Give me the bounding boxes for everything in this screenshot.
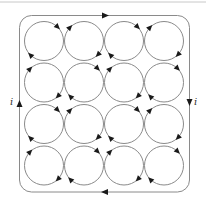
loop-arrow-icon xyxy=(106,150,112,156)
boundary-arrow-top xyxy=(102,13,109,19)
left-current-label: i xyxy=(10,97,13,107)
loop-arrow-icon xyxy=(54,106,60,112)
loop-arrow-icon xyxy=(28,53,34,59)
loop-arrow-icon xyxy=(146,25,152,31)
loop-arrow-icon xyxy=(108,53,114,59)
loop-arrow-icon xyxy=(26,67,32,73)
loop-arrow-icon xyxy=(174,65,180,71)
loop-arrow-icon xyxy=(94,65,100,71)
right-current-label: i xyxy=(194,97,197,107)
loop-arrow-icon xyxy=(94,148,100,154)
loop-arrow-icon xyxy=(136,175,142,181)
loop-arrow-icon xyxy=(106,67,112,73)
loop-arrow-icon xyxy=(66,25,72,31)
boundary-arrow-bottom xyxy=(101,189,108,195)
loop-arrow-icon xyxy=(134,106,140,112)
loop-arrow-icon xyxy=(176,134,182,140)
loop-arrow-icon xyxy=(66,108,72,114)
loop-arrow-icon xyxy=(26,150,32,156)
loop-arrow-icon xyxy=(176,51,182,57)
loop-arrow-icon xyxy=(136,92,142,98)
loop-arrow-icon xyxy=(56,92,62,98)
loop-arrow-icon xyxy=(28,136,34,142)
loop-arrow-icon xyxy=(148,94,154,100)
loop-arrow-icon xyxy=(108,136,114,142)
loop-arrow-icon xyxy=(54,23,60,29)
loop-arrow-icon xyxy=(96,134,102,140)
loop-arrow-icon xyxy=(56,175,62,181)
current-loop-diagram xyxy=(0,0,206,204)
loop-arrow-icon xyxy=(146,108,152,114)
circulating-loops xyxy=(25,22,184,186)
loop-arrow-icon xyxy=(148,177,154,183)
loop-arrow-icon xyxy=(68,177,74,183)
loop-arrow-icon xyxy=(134,23,140,29)
loop-arrow-icon xyxy=(174,148,180,154)
boundary-arrow-left xyxy=(17,100,23,107)
loop-arrow-icon xyxy=(68,94,74,100)
loop-arrow-icon xyxy=(96,51,102,57)
boundary-arrow-right xyxy=(187,99,193,106)
